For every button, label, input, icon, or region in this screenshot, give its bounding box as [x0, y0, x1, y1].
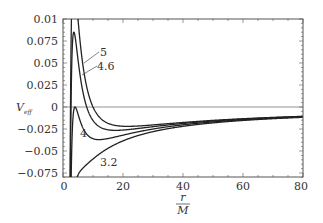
- curve-label-4.6: 4.6: [97, 60, 115, 73]
- xtick-label: 80: [294, 180, 308, 193]
- plot-frame: [63, 19, 303, 177]
- y-tick-labels: 0.01 0.075 0.05 0.025 0 −0.025 −0.05 −0.…: [17, 13, 58, 180]
- ytick-label: 0.01: [34, 13, 59, 26]
- ytick-label: −0.075: [17, 167, 58, 180]
- ytick-label: 0: [51, 101, 58, 114]
- ylabel-subscript: eff: [24, 108, 34, 116]
- curve-label-5: 5: [100, 46, 107, 59]
- ytick-label: −0.05: [24, 145, 58, 158]
- curve-labels: 5 4.6 4 3.2: [80, 46, 118, 169]
- ytick-label: 0.05: [34, 57, 59, 70]
- curve-label-3.2: 3.2: [100, 156, 118, 169]
- ytick-label: 0.075: [27, 35, 59, 48]
- y-axis-label: V eff: [16, 101, 34, 116]
- x-axis-label: r M: [176, 191, 190, 217]
- effective-potential-chart: 0.01 0.075 0.05 0.025 0 −0.025 −0.05 −0.…: [0, 0, 323, 223]
- curve-label-4: 4: [80, 127, 87, 140]
- ytick-label: 0.025: [27, 79, 59, 92]
- xlabel-denominator: M: [176, 204, 189, 217]
- xtick-label: 60: [236, 180, 250, 193]
- xtick-label: 20: [116, 180, 130, 193]
- xtick-label: 0: [61, 180, 68, 193]
- ytick-label: −0.025: [17, 123, 58, 136]
- xlabel-numerator: r: [180, 191, 186, 204]
